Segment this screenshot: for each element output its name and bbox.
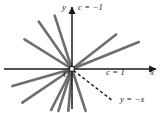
asymptote-label: y = −x — [120, 95, 144, 104]
c-positive-label: c = 1 — [106, 68, 125, 77]
origin-label: O — [63, 70, 70, 79]
ray-upper-left-mid — [39, 22, 72, 70]
ray-upper-right-mid — [72, 35, 116, 70]
ray-upper-right-shallow — [72, 42, 139, 69]
figure-canvas: y x O c = −1 c = 1 y = −x — [0, 0, 162, 113]
origin-marker — [70, 67, 75, 72]
y-axis-label: y — [62, 3, 66, 12]
c-negative-label: c = −1 — [78, 3, 103, 12]
x-axis-label: x — [150, 68, 154, 77]
